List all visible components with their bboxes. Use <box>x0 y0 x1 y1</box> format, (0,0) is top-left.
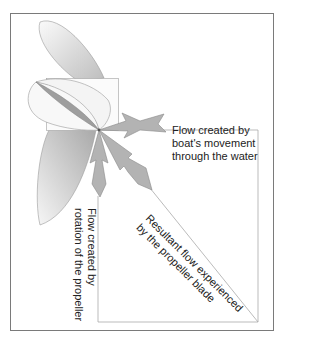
rotation-flow-label: Flow created by rotation of the propelle… <box>72 208 98 321</box>
boat-flow-label-line-3: through the water <box>172 150 258 163</box>
rotation-flow-label-line-2: rotation of the propeller <box>72 208 85 321</box>
rotation-flow-label-line-1: Flow created by <box>85 208 98 321</box>
hub-point <box>98 129 101 132</box>
boat-flow-label: Flow created by boat's movement through … <box>172 124 258 163</box>
boat-flow-label-line-2: boat's movement <box>172 137 258 150</box>
boat-flow-label-line-1: Flow created by <box>172 124 258 137</box>
